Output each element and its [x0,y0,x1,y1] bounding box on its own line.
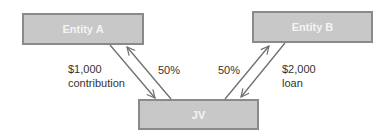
loan-label: $2,000 loan [282,62,316,90]
entity-a-box: Entity A [22,13,144,45]
jv-box: JV [138,99,259,130]
entity-a-label: Entity A [62,23,103,35]
contribution-text: contribution [68,76,125,90]
jv-label: JV [192,109,205,121]
entity-b-box: Entity B [252,11,373,43]
loan-amount: $2,000 [282,62,316,76]
ownership-a-label: 50% [158,63,180,77]
contribution-label: $1,000 contribution [68,62,125,90]
loan-text: loan [282,76,316,90]
entity-b-label: Entity B [292,21,334,33]
ownership-b-label: 50% [218,63,240,77]
contribution-amount: $1,000 [68,62,125,76]
arrow-b-to-jv [241,43,285,97]
